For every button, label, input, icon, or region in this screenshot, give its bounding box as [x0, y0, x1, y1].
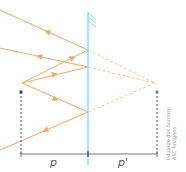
arrow-icon — [43, 28, 51, 36]
image-credit: Eduardo dos Santos/ ASC Imagens — [165, 108, 178, 160]
image-distance-label: p' — [117, 156, 128, 169]
plane-mirror-diagram: p p' Eduardo dos Santos/ ASC Imagens — [0, 0, 186, 172]
plane-mirror — [88, 12, 96, 165]
ray-arrows — [36, 28, 77, 134]
credit-line-2: ASC Imagens — [171, 126, 178, 160]
reflected-ray-1 — [0, 10, 88, 50]
image-point-marker — [156, 91, 159, 94]
object-guide — [20, 91, 23, 155]
reflected-rays — [0, 10, 88, 150]
arrow-icon — [41, 126, 49, 134]
dimension-line — [21, 151, 157, 157]
object-distance-label: p — [49, 156, 57, 169]
mirror-hatch-icon — [88, 13, 96, 27]
virtual-rays — [88, 50, 155, 112]
virtual-ray-3 — [88, 83, 155, 112]
arrow-icon — [69, 54, 77, 62]
object-point-marker — [20, 91, 23, 94]
reflected-ray-2 — [0, 48, 88, 67]
virtual-ray-1 — [88, 50, 155, 83]
virtual-ray-2 — [88, 67, 155, 83]
incident-rays — [22, 50, 88, 112]
image-guide — [156, 91, 159, 155]
